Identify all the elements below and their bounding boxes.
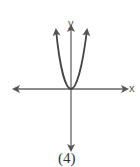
x-axis-label: x xyxy=(129,82,135,94)
figure-caption: (4) xyxy=(58,150,76,167)
y-axis-label: y xyxy=(68,17,74,29)
